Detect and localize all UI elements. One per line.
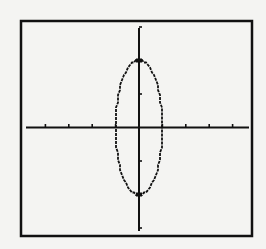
vertex-marker (136, 59, 142, 63)
vertex-marker (136, 193, 142, 197)
calculator-graph-screen (0, 0, 266, 249)
axes (26, 27, 249, 231)
